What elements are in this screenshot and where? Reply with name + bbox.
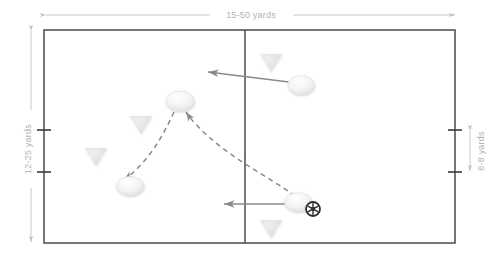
width-dimension: 15-50 yards [46, 10, 455, 20]
soccer-drill-diagram: 15-50 yards 12-25 yards 6-8 yards [0, 0, 503, 259]
height-dimension: 12-25 yards [23, 31, 33, 242]
goal-dimension-label: 6-8 yards [476, 131, 486, 171]
diagram-canvas: 15-50 yards 12-25 yards 6-8 yards [0, 0, 503, 259]
player-marker-top-right [288, 76, 314, 95]
soccer-ball-icon [306, 202, 320, 216]
goal-dimension: 6-8 yards [470, 131, 486, 171]
player-marker-lower-left [117, 177, 144, 196]
field-boundary [44, 30, 455, 243]
height-dimension-label: 12-25 yards [23, 124, 33, 174]
width-dimension-label: 15-50 yards [226, 10, 276, 20]
player-marker-center-top [166, 91, 194, 111]
